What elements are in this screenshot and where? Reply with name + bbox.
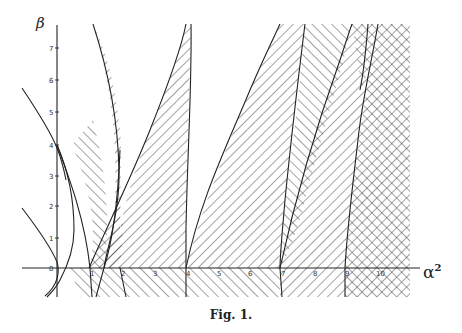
hatched-region-3-below [186,268,280,297]
svg-text:6: 6 [49,77,54,85]
svg-text:9: 9 [345,270,349,278]
svg-text:7: 7 [281,270,285,278]
svg-text:2: 2 [121,270,125,278]
svg-text:10: 10 [376,270,385,278]
svg-text:2: 2 [49,203,53,211]
y-axis-label: β [36,14,45,32]
svg-text:1: 1 [49,235,53,243]
svg-text:5: 5 [49,109,53,117]
svg-text:7: 7 [49,45,53,53]
stability-chart: 7 6 5 4 3 2 1 0 1 2 3 4 5 6 7 8 9 10 [0,0,462,333]
svg-text:1: 1 [90,270,94,278]
x-axis-label-base: α [423,262,434,282]
svg-text:3: 3 [49,173,53,181]
x-axis-label-exponent: 2 [434,262,441,273]
svg-text:8: 8 [313,270,317,278]
svg-text:4: 4 [186,270,191,278]
boundary-curve-left-c [47,145,74,297]
svg-text:3: 3 [153,270,157,278]
svg-text:5: 5 [217,270,221,278]
svg-text:0: 0 [49,265,53,273]
boundary-curve-left-b [22,208,58,296]
figure-caption: Fig. 1. [0,308,462,322]
x-axis-label: α2 [423,262,441,282]
svg-text:6: 6 [248,270,253,278]
hatched-region-2-below [70,268,186,297]
svg-text:4: 4 [49,142,54,150]
y-tick-labels: 7 6 5 4 3 2 1 0 [49,45,54,273]
